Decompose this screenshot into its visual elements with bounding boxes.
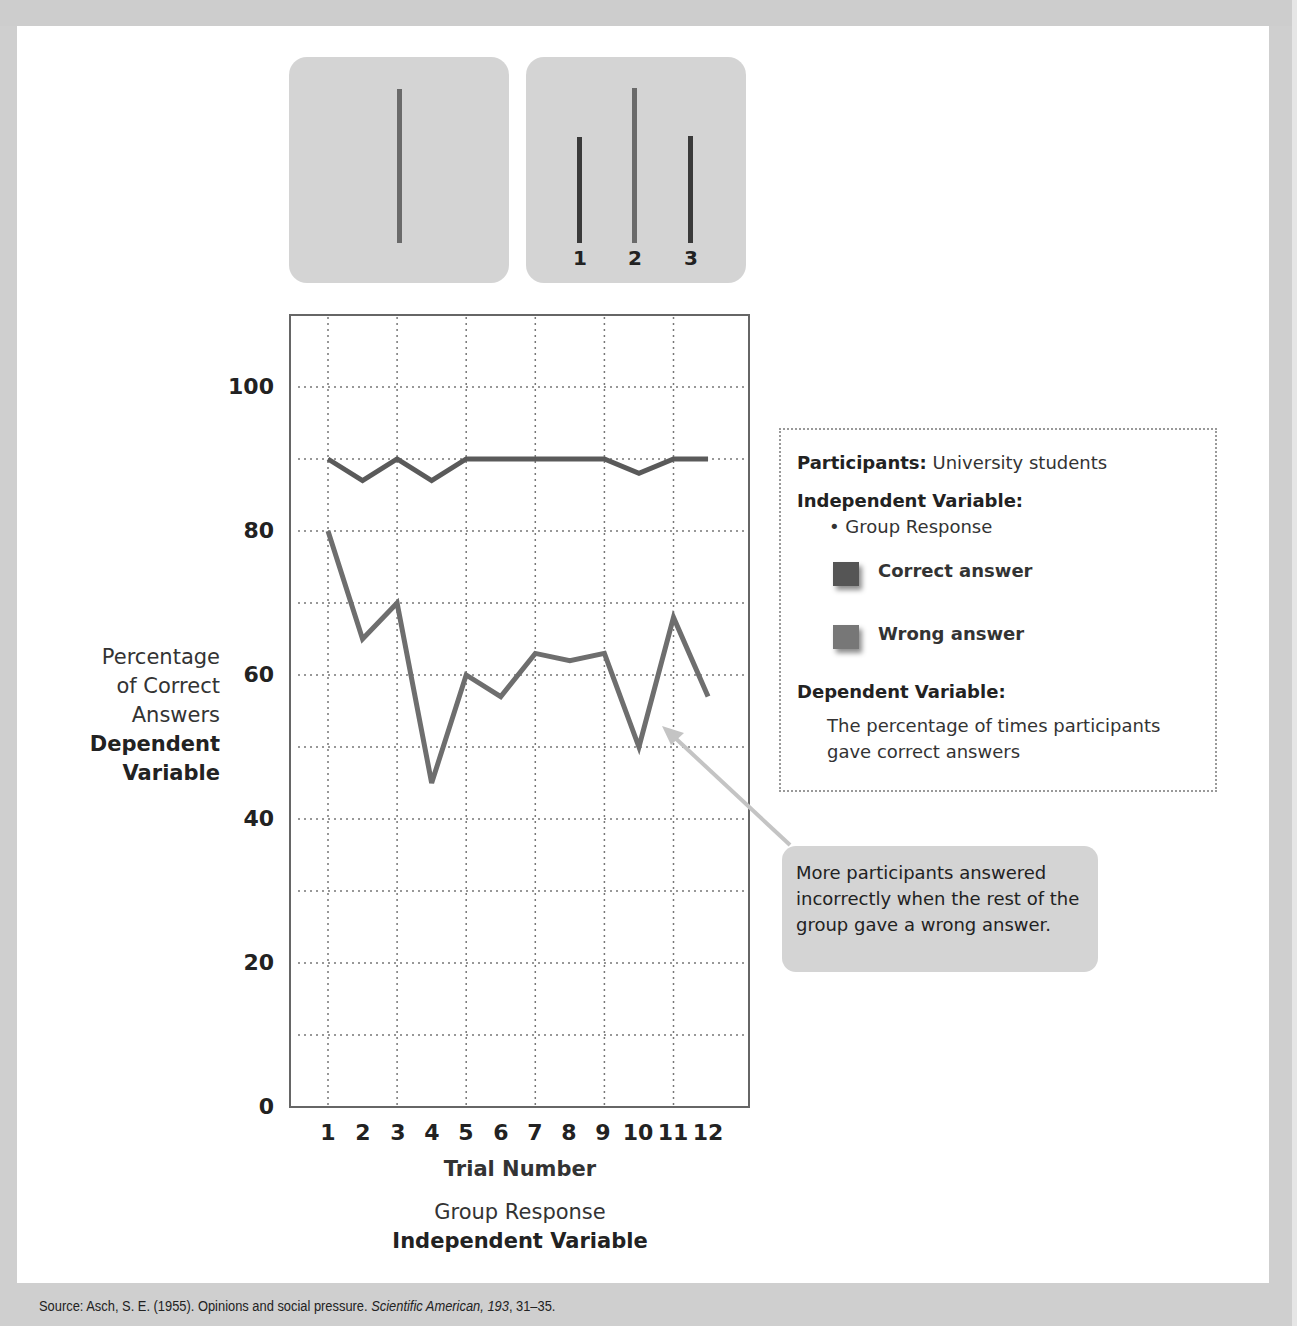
legend-box: Participants: University students Indepe… — [779, 428, 1217, 792]
wrong-answer-label: Wrong answer — [878, 623, 1024, 644]
source-suffix: , 31–35. — [509, 1298, 556, 1314]
y-tick-0: 0 — [214, 1094, 274, 1119]
y-tick-20: 20 — [214, 950, 274, 975]
correct-answer-label: Correct answer — [878, 560, 1032, 581]
x-tick-10: 10 — [618, 1120, 658, 1145]
x-axis-subtitle: Group Response — [360, 1200, 680, 1224]
annotation-callout: More participants answered incorrectly w… — [782, 846, 1098, 972]
participants-value: University students — [932, 452, 1107, 473]
x-tick-9: 9 — [583, 1120, 623, 1145]
iv-label: Independent Variable: — [797, 490, 1023, 511]
iv-item: • Group Response — [829, 516, 992, 537]
x-tick-12: 12 — [688, 1120, 728, 1145]
x-tick-11: 11 — [653, 1120, 693, 1145]
source-citation: Source: Asch, S. E. (1955). Opinions and… — [39, 1298, 555, 1314]
wrong-answer-swatch — [833, 625, 859, 649]
x-axis-variable: Independent Variable — [340, 1229, 700, 1253]
x-tick-2: 2 — [343, 1120, 383, 1145]
y-axis-label: Percentage of Correct Answers Dependent … — [40, 643, 220, 788]
y-tick-40: 40 — [214, 806, 274, 831]
y-label-line-3: Answers — [40, 701, 220, 730]
y-tick-60: 60 — [214, 662, 274, 687]
y-label-var-1: Dependent — [40, 730, 220, 759]
legend-participants: Participants: University students — [797, 452, 1107, 473]
x-axis-title: Trial Number — [380, 1157, 660, 1181]
x-tick-5: 5 — [446, 1120, 486, 1145]
dv-line-1: The percentage of times participants — [827, 715, 1160, 736]
chart-grid — [298, 317, 747, 1105]
participants-label: Participants: — [797, 452, 927, 473]
y-tick-100: 100 — [214, 374, 274, 399]
correct-answer-swatch — [833, 562, 859, 586]
source-prefix: Source: Asch, S. E. (1955). Opinions and… — [39, 1298, 371, 1314]
series-wrong-answer — [328, 531, 708, 783]
source-journal: Scientific American, 193 — [371, 1298, 509, 1314]
dv-line-2: gave correct answers — [827, 741, 1020, 762]
callout-arrow — [662, 726, 790, 845]
y-tick-80: 80 — [214, 518, 274, 543]
y-label-line-1: Percentage — [40, 643, 220, 672]
dv-label: Dependent Variable: — [797, 681, 1006, 702]
series-correct-answer — [328, 459, 708, 481]
y-label-var-2: Variable — [40, 759, 220, 788]
y-label-line-2: of Correct — [40, 672, 220, 701]
x-tick-1: 1 — [308, 1120, 348, 1145]
chart-frame — [290, 315, 749, 1107]
